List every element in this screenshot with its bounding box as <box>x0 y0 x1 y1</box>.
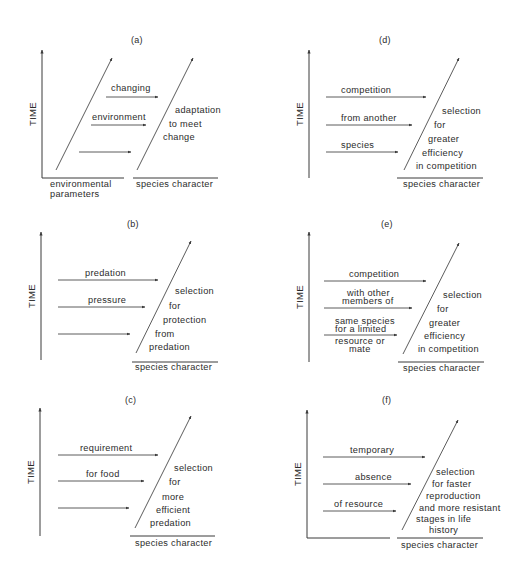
outcome-text: selection <box>175 286 214 296</box>
outcome-text: for <box>169 477 181 487</box>
time-axis-label: TIME <box>26 284 37 308</box>
outcome-text: selection <box>443 290 482 300</box>
outcome-text: selection <box>436 467 475 477</box>
outcome-text: for <box>434 120 446 130</box>
panel-d: (d)TIMEcompetitionfrom anotherspeciessel… <box>294 35 483 189</box>
pressure-label: changing <box>111 83 151 93</box>
figure-canvas: (a)TIMEchangingenvironmentadaptationto m… <box>0 0 531 579</box>
panel-label: (b) <box>127 219 139 229</box>
pressure-label: temporary <box>350 445 394 455</box>
pressure-label: competition <box>341 85 391 95</box>
outcome-text: from <box>155 329 175 339</box>
outcome-text: history <box>429 525 458 535</box>
x-axis-label: environmental <box>50 179 112 189</box>
outcome-text: efficiency <box>422 148 463 158</box>
outcome-text: adaptation <box>175 105 221 115</box>
outcome-text: and more resistant <box>419 503 501 513</box>
panel-a: (a)TIMEchangingenvironmentadaptationto m… <box>27 35 221 199</box>
pressure-sublabel: members of <box>342 296 394 306</box>
panel-c: (c)TIMErequirementfor foodselectionformo… <box>25 395 215 548</box>
pressure-label: environment <box>92 112 146 122</box>
x-axis-label: species character <box>136 179 213 189</box>
panel-label: (e) <box>381 219 393 229</box>
outcome-text: efficient <box>156 505 190 515</box>
outcome-text: stages in life <box>416 514 471 524</box>
panel-f: (f)TIMEtemporaryabsenceof resourceselect… <box>292 395 501 550</box>
panels-container: (a)TIMEchangingenvironmentadaptationto m… <box>25 35 501 550</box>
panel-label: (a) <box>131 35 143 45</box>
x-axis-label: species character <box>135 362 212 372</box>
outcome-text: for <box>169 301 181 311</box>
outcome-text: greater <box>428 134 459 144</box>
pressure-label: requirement <box>80 443 132 453</box>
panel-label: (d) <box>379 35 391 45</box>
panel-label: (f) <box>382 395 391 405</box>
panel-b: (b)TIMEpredationpressureselectionforprot… <box>26 219 218 372</box>
outcome-text: reproduction <box>426 491 481 501</box>
pressure-label: predation <box>85 268 126 278</box>
outcome-text: efficiency <box>424 331 465 341</box>
pressure-label: absence <box>355 472 392 482</box>
pressure-label: for food <box>86 469 120 479</box>
outcome-text: protection <box>163 315 206 325</box>
time-axis-label: TIME <box>27 102 38 126</box>
pressure-label: competition <box>349 269 399 279</box>
pressure-label: of resource <box>334 499 383 509</box>
pressure-label: species <box>341 140 374 150</box>
outcome-text: to meet <box>169 119 202 129</box>
time-axis-label: TIME <box>292 462 303 486</box>
outcome-text: more <box>162 492 184 502</box>
x-axis-label: species character <box>401 540 478 550</box>
x-axis-label: species character <box>403 363 480 373</box>
outcome-text: selection <box>442 106 481 116</box>
pressure-label: from another <box>341 113 397 123</box>
x-axis-label: species character <box>135 538 212 548</box>
x-axis-label: species character <box>403 179 480 189</box>
time-axis-label: TIME <box>294 285 305 309</box>
panel-e: (e)TIMEcompetitionwith othersame species… <box>294 219 484 373</box>
outcome-text: in competition <box>418 344 479 354</box>
pressure-sublabel: for a limited <box>335 324 386 334</box>
panel-label: (c) <box>125 395 136 405</box>
outcome-text: selection <box>174 463 213 473</box>
time-axis-label: TIME <box>294 102 305 126</box>
outcome-text: for faster <box>432 479 471 489</box>
outcome-text: predation <box>150 518 191 528</box>
outcome-text: in competition <box>416 161 477 171</box>
time-axis-label: TIME <box>25 460 36 484</box>
x-axis-label: parameters <box>50 189 100 199</box>
pressure-label: pressure <box>88 295 126 305</box>
outcome-text: predation <box>149 342 190 352</box>
outcome-text: greater <box>429 318 460 328</box>
outcome-text: for <box>437 304 449 314</box>
pressure-sublabel: mate <box>349 344 371 354</box>
outcome-text: change <box>163 132 195 142</box>
